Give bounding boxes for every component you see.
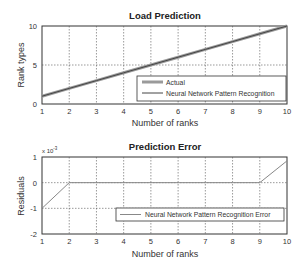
- x-tick-label: 10: [283, 237, 291, 246]
- y-tick-label: 0: [33, 100, 37, 109]
- y-ticks: 0510: [29, 22, 37, 109]
- x-tick-label: 3: [94, 237, 98, 246]
- plot-area: [42, 157, 287, 234]
- x-tick-label: 2: [67, 107, 71, 116]
- x-tick-label: 5: [149, 237, 153, 246]
- x-tick-label: 4: [122, 107, 126, 116]
- x-tick-label: 8: [230, 237, 234, 246]
- x-ticks: 12345678910: [40, 237, 291, 246]
- legend: Actual Neural Network Pattern Recognitio…: [137, 76, 286, 101]
- x-tick-label: 4: [122, 237, 126, 246]
- x-tick-label: 3: [94, 107, 98, 116]
- x-axis-label: Number of ranks: [132, 118, 199, 128]
- x-tick-label: 6: [176, 107, 180, 116]
- y-tick-label: 0: [33, 179, 37, 188]
- chart-title: Load Prediction: [129, 10, 201, 21]
- figure: Load Prediction 0510 12345678910 Number …: [0, 0, 305, 273]
- chart-title: Prediction Error: [129, 141, 202, 152]
- x-tick-label: 2: [67, 237, 71, 246]
- y-tick-label: -1: [30, 204, 37, 213]
- y-scale-factor: x 10-3: [42, 146, 58, 154]
- x-tick-label: 9: [258, 237, 262, 246]
- y-tick-label: 5: [33, 61, 37, 70]
- legend-label-error: Neural Network Pattern Recognition Error: [145, 211, 271, 219]
- x-ticks: 12345678910: [40, 107, 291, 116]
- y-axis-label: Rank types: [16, 42, 26, 88]
- x-tick-label: 10: [283, 107, 291, 116]
- x-tick-label: 5: [149, 107, 153, 116]
- x-axis-label: Number of ranks: [132, 249, 199, 259]
- y-axis-label: Residuals: [16, 176, 26, 216]
- x-tick-label: 8: [230, 107, 234, 116]
- y-tick-label: 10: [29, 22, 37, 31]
- legend-label-nn: Neural Network Pattern Recognition: [166, 90, 275, 98]
- x-tick-label: 1: [40, 237, 44, 246]
- load-prediction-chart: Load Prediction 0510 12345678910 Number …: [16, 10, 291, 128]
- x-tick-label: 9: [258, 107, 262, 116]
- y-tick-label: 1: [33, 153, 37, 162]
- x-tick-label: 1: [40, 107, 44, 116]
- legend: Neural Network Pattern Recognition Error: [116, 208, 284, 221]
- prediction-error-chart: Prediction Error -2-101 12345678910 x 10…: [16, 141, 291, 259]
- x-tick-label: 6: [176, 237, 180, 246]
- x-tick-label: 7: [203, 237, 207, 246]
- x-tick-label: 7: [203, 107, 207, 116]
- legend-label-actual: Actual: [166, 79, 185, 86]
- y-tick-label: -2: [30, 230, 37, 239]
- y-ticks: -2-101: [30, 153, 37, 239]
